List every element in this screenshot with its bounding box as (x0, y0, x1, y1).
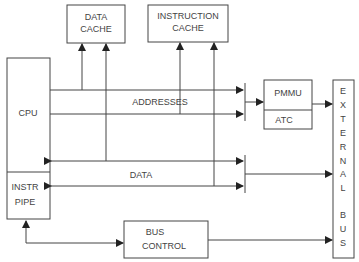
external-bus-letter: T (340, 114, 346, 124)
address-bus: ADDRESSES (50, 43, 263, 121)
bus-control-label-1: BUS (146, 227, 165, 237)
instr-pipe-label-2: PIPE (15, 197, 36, 207)
data-cache-block: DATA CACHE (67, 5, 125, 43)
external-bus-letter: X (340, 100, 346, 110)
pipe-bus-control-link (26, 221, 123, 243)
bus-control-block: BUS CONTROL (124, 221, 208, 258)
external-bus-letter: E (340, 86, 346, 96)
external-bus-letter: U (340, 224, 347, 234)
external-bus-letter: L (340, 183, 345, 193)
external-bus-letter: N (340, 156, 347, 166)
instruction-cache-label-1: INSTRUCTION (157, 11, 219, 21)
cpu-block: CPU INSTR PIPE (7, 58, 50, 219)
data-cache-label-2: CACHE (80, 24, 112, 34)
data-cache-label-1: DATA (85, 12, 108, 22)
external-bus-letter: S (340, 238, 346, 248)
instr-pipe-label-1: INSTR (12, 182, 40, 192)
external-bus-letter: B (340, 210, 346, 220)
cpu-label: CPU (18, 108, 37, 118)
pmmu-block: PMMU ATC (264, 80, 312, 129)
pmmu-label: PMMU (274, 88, 302, 98)
atc-label: ATC (275, 115, 293, 125)
external-bus-letter: E (340, 128, 346, 138)
external-bus-block: E X T E R N A L B U S (333, 80, 354, 258)
instruction-cache-label-2: CACHE (172, 23, 204, 33)
external-bus-letter: A (340, 169, 346, 179)
data-label: DATA (130, 170, 153, 180)
bus-control-label-2: CONTROL (142, 241, 186, 251)
addresses-label: ADDRESSES (132, 97, 188, 107)
external-bus-letter: R (340, 142, 347, 152)
instruction-cache-block: INSTRUCTION CACHE (148, 5, 228, 42)
block-diagram: DATA CACHE INSTRUCTION CACHE CPU INSTR P… (0, 0, 359, 262)
